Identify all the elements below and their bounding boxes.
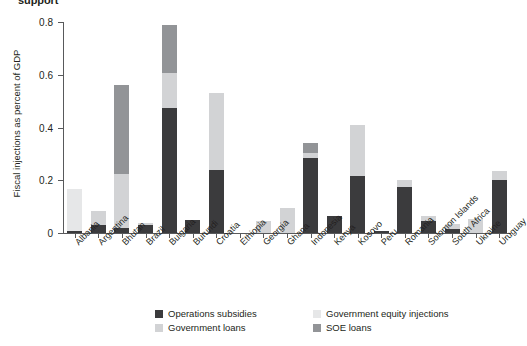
chart-container: support Fiscal injections as percent of … [0, 0, 527, 346]
y-axis-tick-label: 0.6 [39, 69, 53, 80]
legend-label: Government equity injections [326, 308, 449, 319]
bar-ethiopia [232, 22, 247, 233]
bar-segment [162, 108, 177, 233]
bar-segment [397, 187, 412, 233]
bar-croatia [209, 22, 224, 233]
bar-segment [162, 73, 177, 107]
y-axis-tick-label: 0.8 [39, 17, 53, 28]
bar-bulgaria [162, 22, 177, 233]
bar-segment [397, 180, 412, 187]
chart-title: support [18, 0, 58, 6]
bar-segment [162, 25, 177, 74]
bar-bhutan [114, 22, 129, 233]
bar-peru [374, 22, 389, 233]
legend-row: Government loans SOE loans [155, 322, 449, 333]
y-axis-tick-label: 0.2 [39, 175, 53, 186]
legend-swatch-icon [155, 310, 163, 318]
bar-segment [492, 171, 507, 180]
bar-brazil [138, 22, 153, 233]
bar-kosovo [350, 22, 365, 233]
y-axis-label: Fiscal injections as percent of GDP [11, 29, 22, 219]
bar-romania [397, 22, 412, 233]
legend-swatch-icon [313, 324, 321, 332]
bar-south-africa [445, 22, 460, 233]
legend-label: SOE loans [326, 322, 371, 333]
bar-solomon-islands [421, 22, 436, 233]
y-axis-tick: 0.2 [58, 180, 63, 181]
legend-swatch-icon [155, 324, 163, 332]
y-axis-tick-label: 0.4 [39, 122, 53, 133]
bar-segment [303, 143, 318, 152]
bar-burundi [185, 22, 200, 233]
y-axis-tick: 0.4 [58, 128, 63, 129]
legend-swatch-icon [313, 310, 321, 318]
legend-label: Government loans [168, 322, 246, 333]
bar-segment [209, 93, 224, 169]
bar-kenya [327, 22, 342, 233]
bar-segment [350, 125, 365, 176]
legend-label: Operations subsidies [168, 308, 257, 319]
bar-ghana [280, 22, 295, 233]
bar-segment [67, 189, 82, 230]
plot-area [63, 22, 511, 233]
legend-row: Operations subsidies Government equity i… [155, 308, 449, 319]
bar-segment [303, 153, 318, 158]
bar-indonesia [303, 22, 318, 233]
chart-legend: Operations subsidies Government equity i… [155, 308, 449, 336]
bar-argentina [91, 22, 106, 233]
bar-albania [67, 22, 82, 233]
legend-item-government-equity-injections: Government equity injections [313, 308, 449, 319]
legend-item-soe-loans: SOE loans [313, 322, 371, 333]
legend-item-operations-subsidies: Operations subsidies [155, 308, 313, 319]
y-axis-tick-label: 0 [47, 228, 53, 239]
bar-segment [114, 85, 129, 173]
y-axis-tick: 0.6 [58, 75, 63, 76]
bar-georgia [256, 22, 271, 233]
y-axis-tick: 0 [58, 233, 63, 234]
y-axis-tick: 0.8 [58, 22, 63, 23]
bar-uruguay [492, 22, 507, 233]
legend-item-government-loans: Government loans [155, 322, 313, 333]
